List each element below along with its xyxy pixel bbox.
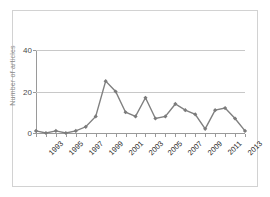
x-tick-label: 2001 — [126, 139, 144, 157]
y-tick-label: 40 — [23, 46, 32, 55]
y-tick-label: 20 — [23, 87, 32, 96]
x-tick-mark — [46, 134, 47, 137]
x-tick-label: 1999 — [107, 139, 125, 157]
x-tick-mark — [155, 134, 156, 137]
x-tick-mark — [56, 134, 57, 137]
x-tick-mark — [106, 134, 107, 137]
x-tick-label: 1993 — [47, 139, 65, 157]
y-axis-title: Number of articles — [9, 33, 16, 119]
data-point-marker — [54, 129, 58, 133]
x-tick-label: 1995 — [67, 139, 85, 157]
x-tick-mark — [136, 134, 137, 137]
x-tick-mark — [235, 134, 236, 137]
x-tick-mark — [215, 134, 216, 137]
chart-figure: Number of articles 02040 199319951997199… — [0, 0, 270, 197]
x-tick-mark — [76, 134, 77, 137]
x-tick-label: 2005 — [166, 139, 184, 157]
x-tick-label: 2009 — [206, 139, 224, 157]
plot-area: 02040 — [36, 50, 245, 133]
x-tick-label: 2011 — [226, 139, 244, 157]
x-tick-mark — [116, 134, 117, 137]
y-tick-label: 0 — [28, 129, 32, 138]
x-tick-mark — [66, 134, 67, 137]
data-series-line — [36, 50, 245, 133]
x-tick-mark — [205, 134, 206, 137]
x-tick-mark — [175, 134, 176, 137]
x-tick-mark — [185, 134, 186, 137]
x-tick-mark — [126, 134, 127, 137]
x-tick-mark — [36, 134, 37, 137]
x-axis-ticks-and-labels: 1993199519971999200120032005200720092011… — [36, 134, 245, 184]
x-tick-label: 1997 — [87, 139, 105, 157]
x-tick-mark — [165, 134, 166, 137]
data-point-marker — [74, 129, 78, 133]
x-tick-mark — [225, 134, 226, 137]
series-polyline — [36, 81, 245, 133]
x-tick-mark — [86, 134, 87, 137]
x-tick-label: 2003 — [146, 139, 164, 157]
x-tick-mark — [145, 134, 146, 137]
x-tick-mark — [195, 134, 196, 137]
x-tick-mark — [96, 134, 97, 137]
x-tick-mark — [245, 134, 246, 137]
x-tick-label: 2007 — [186, 139, 204, 157]
